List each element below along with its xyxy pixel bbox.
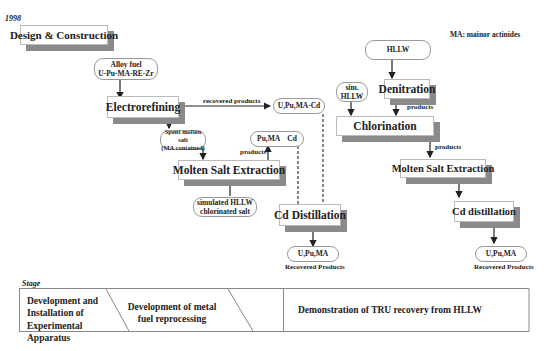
stage-cell-metal-fuel-reprocessing: Development of metal fuel reprocessing: [122, 301, 222, 326]
stage-cell-tru-recovery: Demonstration of TRU recovery from HLLW: [260, 304, 520, 316]
stage-cell-development-installation: Development and Installation of Experime…: [27, 295, 127, 344]
